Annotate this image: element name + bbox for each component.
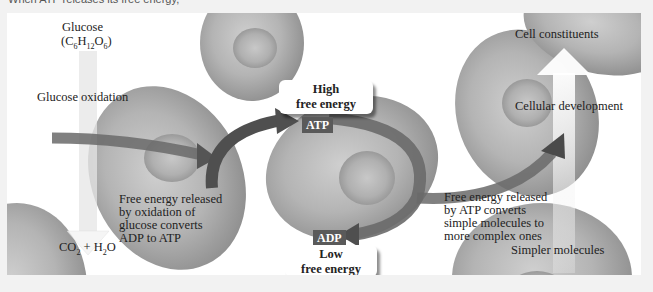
oxidation-release-text: Free energy released by oxidation of glu… — [119, 193, 222, 245]
high-free-energy-box: High free energy — [279, 80, 373, 114]
glucose-oxidation-label: Glucose oxidation — [37, 91, 128, 104]
atp-tag: ATP — [302, 117, 333, 133]
co2-h2o-label: CO2 + H2O — [59, 241, 116, 254]
adp-tag: ADP — [313, 230, 346, 246]
low-free-energy-box: Low free energy — [285, 245, 377, 275]
diagram-panel: Glucose (C6H12O6) Glucose oxidation Free… — [7, 13, 641, 275]
cell-constituents-label: Cell constituents — [515, 28, 599, 41]
atp-release-text: Free energy released by ATP converts sim… — [444, 191, 547, 243]
glucose-label: Glucose — [62, 21, 103, 34]
simpler-molecules-label: Simpler molecules — [511, 244, 604, 257]
cut-off-header-text: When ATP releases its free energy, — [8, 0, 179, 5]
cellular-development-label: Cellular development — [515, 100, 623, 113]
glucose-formula: (C6H12O6) — [61, 35, 112, 48]
